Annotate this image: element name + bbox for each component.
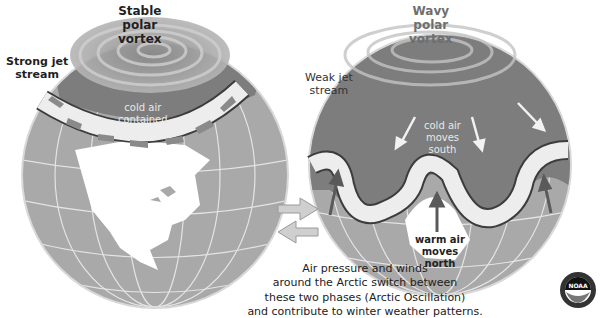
cold-air-moves-south-label: cold airmovessouth bbox=[424, 120, 461, 155]
phase-switch-arrows[interactable] bbox=[278, 198, 318, 243]
strong-jet-stream-label: Strong jetstream bbox=[6, 56, 68, 82]
caption: Air pressure and windsaround the Arctic … bbox=[220, 262, 510, 318]
arctic-oscillation-diagram: NOAA Stablepolarvortex Strong jetstream … bbox=[0, 0, 608, 318]
cold-air-contained-label: cold aircontained bbox=[118, 102, 168, 126]
svg-text:NOAA: NOAA bbox=[568, 282, 588, 289]
wavy-polar-vortex-label: Wavypolarvortex bbox=[409, 4, 453, 46]
weak-jet-stream-label: Weak jetstream bbox=[305, 72, 353, 98]
noaa-logo: NOAA bbox=[560, 272, 596, 308]
stable-polar-vortex-label: Stablepolarvortex bbox=[118, 4, 162, 46]
